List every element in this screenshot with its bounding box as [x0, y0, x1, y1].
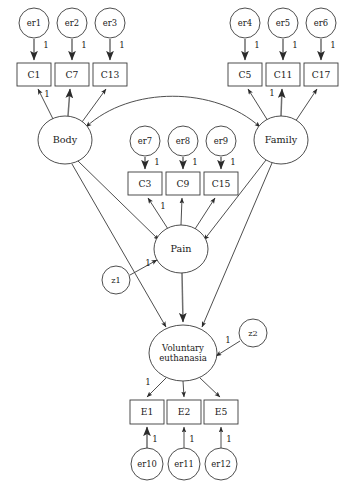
indicator-node-label-c11: C11 — [274, 69, 293, 80]
latent-node-label-pain: Pain — [171, 243, 192, 254]
latent-node-pain: Pain — [154, 225, 208, 273]
path-family-to-c11 — [281, 89, 282, 116]
path-body-to-c13 — [82, 89, 106, 122]
disturbance-node-label-z1: z1 — [111, 275, 121, 285]
coefficient-label-coef-body-c1: 1 — [44, 89, 49, 99]
path-family-to-c5 — [248, 89, 268, 121]
error-node-label-er4: er4 — [238, 18, 252, 28]
sem-path-diagram: er1er2er3er4er5er6er7er8er9er10er11er12z… — [0, 0, 347, 488]
indicator-node-c13: C13 — [93, 63, 127, 86]
indicator-node-c15: C15 — [204, 172, 238, 195]
path-body-family-covariance — [86, 96, 260, 127]
indicator-node-label-c5: C5 — [239, 69, 252, 80]
coefficient-label-coef-er3-c13: 1 — [119, 40, 124, 50]
indicator-node-c11: C11 — [266, 63, 300, 86]
indicator-node-e5: E5 — [204, 400, 238, 424]
coefficient-label-coef-z2-ve: 1 — [225, 335, 230, 345]
error-node-label-er11: er11 — [174, 459, 194, 469]
error-node-label-er9: er9 — [214, 136, 228, 146]
latent-node-label-voluntary_euthanasia: Voluntaryeuthanasia — [159, 343, 207, 363]
latent-node-voluntary_euthanasia: Voluntaryeuthanasia — [149, 325, 217, 381]
coefficient-label-coef-family-c5: 1 — [269, 88, 274, 98]
error-node-label-er3: er3 — [103, 18, 117, 28]
coefficient-label-coef-z1-pain: 1 — [145, 258, 150, 268]
error-node-er2: er2 — [57, 8, 87, 38]
coefficient-label-coef-er5-c11: 1 — [292, 40, 297, 50]
disturbance-node-label-z2: z2 — [248, 328, 258, 338]
indicator-node-label-c17: C17 — [312, 69, 331, 80]
error-node-er11: er11 — [168, 448, 200, 480]
indicator-node-label-c15: C15 — [212, 178, 231, 189]
coefficient-label-coef-er10-e1: 1 — [152, 434, 157, 444]
coefficient-label-coef-er2-c7: 1 — [81, 40, 86, 50]
disturbance-node-z1: z1 — [102, 266, 130, 294]
error-node-er4: er4 — [230, 8, 260, 38]
error-node-label-er1: er1 — [27, 18, 41, 28]
indicator-node-label-e5: E5 — [215, 406, 228, 417]
indicator-node-c7: C7 — [55, 63, 89, 86]
indicator-node-c9: C9 — [166, 172, 200, 195]
sem-diagram-canvas: er1er2er3er4er5er6er7er8er9er10er11er12z… — [0, 0, 347, 488]
path-ve-to-e5 — [200, 378, 220, 397]
coefficient-label-coef-er6-c17: 1 — [330, 40, 335, 50]
indicator-node-c1: C1 — [17, 63, 51, 86]
coefficient-label-coef-er1-c1: 1 — [43, 40, 48, 50]
coefficient-label-coef-er11-e2: 1 — [189, 434, 194, 444]
error-node-er7: er7 — [130, 126, 160, 156]
error-node-er6: er6 — [306, 8, 336, 38]
error-node-er1: er1 — [19, 8, 49, 38]
path-body-to-c7 — [68, 89, 70, 116]
error-node-label-er12: er12 — [211, 459, 231, 469]
disturbance-node-z2: z2 — [239, 319, 267, 347]
coefficient-label-coef-er8-c9: 1 — [192, 157, 197, 167]
indicator-node-e1: E1 — [130, 400, 164, 424]
path-family-to-c17 — [295, 89, 317, 122]
path-z1-to-pain — [130, 260, 157, 275]
error-node-er10: er10 — [131, 448, 163, 480]
indicator-node-c17: C17 — [304, 63, 338, 86]
indicator-node-label-c13: C13 — [101, 69, 120, 80]
error-node-er12: er12 — [205, 448, 237, 480]
indicator-node-e2: E2 — [167, 400, 201, 424]
error-node-er3: er3 — [95, 8, 125, 38]
error-node-label-er10: er10 — [137, 459, 157, 469]
indicator-node-c5: C5 — [228, 63, 262, 86]
coefficient-label-coef-ve-e1: 1 — [145, 377, 150, 387]
coefficient-label-coef-er9-c15: 1 — [230, 157, 235, 167]
indicator-node-label-e1: E1 — [141, 406, 154, 417]
error-node-label-er7: er7 — [138, 136, 152, 146]
indicator-node-label-c7: C7 — [66, 69, 79, 80]
indicator-node-label-c9: C9 — [177, 178, 190, 189]
coefficient-label-coef-er12-e5: 1 — [226, 434, 231, 444]
error-node-label-er2: er2 — [65, 18, 79, 28]
path-pain-to-c9 — [181, 198, 182, 225]
error-node-label-er8: er8 — [176, 136, 190, 146]
latent-node-body: Body — [38, 116, 92, 164]
coefficient-label-coef-er7-c3: 1 — [154, 157, 159, 167]
indicator-node-c3: C3 — [128, 172, 162, 195]
indicator-node-label-e2: E2 — [178, 406, 191, 417]
error-node-label-er6: er6 — [314, 18, 328, 28]
path-pain-to-ve — [182, 273, 183, 322]
error-node-er9: er9 — [206, 126, 236, 156]
coefficient-label-coef-er4-c5: 1 — [254, 40, 259, 50]
indicator-node-label-c3: C3 — [139, 178, 152, 189]
latent-node-label-family: Family — [265, 134, 298, 145]
coefficient-label-coef-pain-c3: 1 — [160, 201, 165, 211]
indicator-node-label-c1: C1 — [28, 69, 41, 80]
error-node-er5: er5 — [268, 8, 298, 38]
error-node-label-er5: er5 — [276, 18, 290, 28]
path-pain-to-c15 — [195, 198, 215, 229]
latent-node-family: Family — [254, 116, 308, 164]
error-node-er8: er8 — [168, 126, 198, 156]
path-ve-to-e2 — [183, 381, 184, 397]
nodes-group: er1er2er3er4er5er6er7er8er9er10er11er12z… — [17, 8, 338, 480]
latent-node-label-body: Body — [53, 134, 78, 145]
